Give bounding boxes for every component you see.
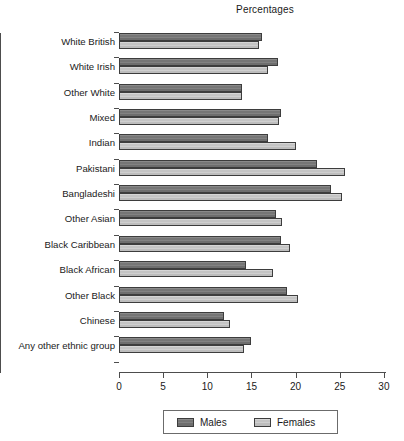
x-axis-line — [119, 372, 386, 373]
bar-males — [119, 312, 224, 320]
legend-entry-males: Males — [177, 416, 227, 428]
category-label: White British — [3, 36, 115, 47]
bar-chart: Percentages White BritishWhite IrishOthe… — [0, 0, 404, 441]
bar-males — [119, 210, 276, 218]
bar-males — [119, 160, 317, 168]
bar-females — [119, 41, 259, 49]
bar-females — [119, 66, 268, 74]
y-axis-tick — [114, 83, 119, 84]
bar-males — [119, 287, 287, 295]
x-axis-tick-label: 15 — [239, 381, 263, 392]
y-axis-tick — [114, 108, 119, 109]
x-axis-tick-label: 5 — [151, 381, 175, 392]
x-axis-tick-label: 25 — [328, 381, 352, 392]
category-label: Other Asian — [3, 213, 115, 224]
category-label: Mixed — [3, 112, 115, 123]
x-axis-tick — [296, 373, 297, 378]
bar-females — [119, 320, 230, 328]
x-axis-tick — [340, 373, 341, 378]
x-axis-tick — [207, 373, 208, 378]
bar-females — [119, 117, 279, 125]
y-axis-tick — [114, 184, 119, 185]
x-axis-tick-label: 0 — [107, 381, 131, 392]
y-axis-tick — [114, 57, 119, 58]
y-axis-tick — [114, 260, 119, 261]
x-axis-tick — [119, 373, 120, 378]
x-axis-tick-label: 30 — [372, 381, 396, 392]
plot-area — [119, 33, 385, 372]
bar-males — [119, 58, 278, 66]
x-axis-tick — [384, 373, 385, 378]
bar-males — [119, 84, 242, 92]
bar-females — [119, 244, 290, 252]
category-label: Any other ethnic group — [3, 340, 115, 351]
bar-males — [119, 109, 281, 117]
category-label: White Irish — [3, 61, 115, 72]
bar-males — [119, 33, 262, 41]
category-label: Black Caribbean — [3, 239, 115, 250]
x-axis-tick-label: 20 — [284, 381, 308, 392]
chart-legend: Males Females — [163, 410, 338, 434]
x-axis-tick-label: 10 — [195, 381, 219, 392]
y-axis-tick — [114, 133, 119, 134]
legend-label-males: Males — [200, 417, 227, 428]
category-axis-labels: White BritishWhite IrishOther WhiteMixed… — [0, 0, 115, 441]
category-label: Bangladeshi — [3, 188, 115, 199]
x-axis-tick — [163, 373, 164, 378]
bar-males — [119, 337, 251, 345]
y-axis-tick — [114, 209, 119, 210]
legend-swatch-females-icon — [254, 418, 271, 427]
bar-males — [119, 185, 331, 193]
bar-females — [119, 269, 273, 277]
bar-females — [119, 345, 244, 353]
y-axis-tick — [114, 32, 119, 33]
category-label: Indian — [3, 137, 115, 148]
bar-females — [119, 218, 282, 226]
bar-females — [119, 295, 298, 303]
bar-males — [119, 134, 268, 142]
bar-males — [119, 236, 281, 244]
chart-title: Percentages — [190, 4, 340, 15]
category-label: Chinese — [3, 315, 115, 326]
bar-females — [119, 142, 296, 150]
category-label: Pakistani — [3, 163, 115, 174]
category-label: Black African — [3, 264, 115, 275]
y-axis-tick — [114, 362, 119, 363]
category-label: Other Black — [3, 290, 115, 301]
bar-females — [119, 193, 342, 201]
legend-swatch-males-icon — [177, 418, 194, 427]
y-axis-tick — [114, 286, 119, 287]
y-axis-tick — [114, 159, 119, 160]
bar-females — [119, 168, 345, 176]
legend-entry-females: Females — [254, 416, 315, 428]
x-axis-tick — [251, 373, 252, 378]
y-axis-tick — [114, 311, 119, 312]
y-axis-tick — [114, 336, 119, 337]
legend-label-females: Females — [277, 417, 315, 428]
bar-males — [119, 261, 246, 269]
category-label: Other White — [3, 87, 115, 98]
y-axis-tick — [114, 235, 119, 236]
bar-females — [119, 92, 242, 100]
